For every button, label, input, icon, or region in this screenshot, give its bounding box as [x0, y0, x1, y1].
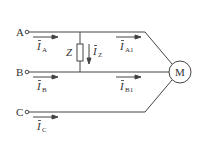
svg-text:A1: A1 [125, 46, 134, 54]
current-label-iz: I Z [92, 45, 102, 59]
circuit-diagram: A B C Z M I A I B I C I A1 I B1 I Z [0, 0, 206, 148]
arrow-ib-icon [33, 75, 58, 79]
terminal-c-label: C [16, 106, 23, 118]
terminal-c-icon [25, 110, 29, 114]
current-label-ic: I C [36, 120, 47, 134]
current-label-ib1: I B1 [119, 80, 134, 94]
arrow-ia1-icon [116, 35, 141, 39]
impedance-z-box [77, 44, 83, 61]
current-label-ia: I A [36, 40, 47, 54]
motor-label: M [175, 66, 185, 78]
current-label-ia1: I A1 [119, 40, 134, 54]
terminal-b-icon [25, 70, 29, 74]
terminal-a-icon [25, 30, 29, 34]
svg-text:B1: B1 [125, 86, 134, 94]
svg-text:A: A [42, 46, 47, 54]
svg-text:C: C [42, 126, 47, 134]
terminal-a-label: A [16, 26, 24, 38]
impedance-label: Z [66, 46, 73, 58]
line-c [29, 80, 172, 112]
arrow-ia-icon [33, 35, 58, 39]
terminal-b-label: B [16, 66, 23, 78]
current-label-ib: I B [36, 80, 47, 94]
arrow-iz-icon [87, 44, 91, 64]
arrow-ic-icon [33, 115, 58, 119]
arrow-ib1-icon [116, 75, 141, 79]
svg-text:B: B [42, 86, 47, 94]
svg-text:Z: Z [98, 51, 102, 59]
